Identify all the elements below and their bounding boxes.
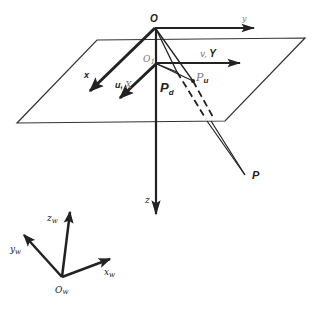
world-x-label: xw xyxy=(104,267,115,279)
ray-to-pu xyxy=(156,29,193,81)
world-y-axis xyxy=(24,235,62,277)
pd-label: Pd xyxy=(160,80,175,97)
camera-y-label: y xyxy=(241,14,247,23)
pu-label: Pu xyxy=(195,71,208,85)
world-origin-label: Ow xyxy=(55,285,68,296)
camera-x-label: x xyxy=(83,70,90,80)
world-z-axis xyxy=(62,212,70,277)
image-u-label: u, X xyxy=(115,80,132,90)
image-origin-label: O1 xyxy=(143,54,155,66)
camera-geometry-diagram: O y x z O1 v, Y u, X Pd Pu P zw yw xw Ow xyxy=(0,0,315,310)
world-x-axis xyxy=(62,259,110,277)
world-y-label: yw xyxy=(9,244,21,256)
camera-origin-label: O xyxy=(150,13,158,24)
pu-point xyxy=(191,79,195,83)
camera-z-label: z xyxy=(144,195,150,205)
ray-below-2 xyxy=(207,121,245,175)
dashed-ray-pu xyxy=(193,81,213,117)
world-z-label: zw xyxy=(46,213,58,225)
image-v-label: v, Y xyxy=(200,48,217,59)
world-point-label: P xyxy=(252,169,260,181)
